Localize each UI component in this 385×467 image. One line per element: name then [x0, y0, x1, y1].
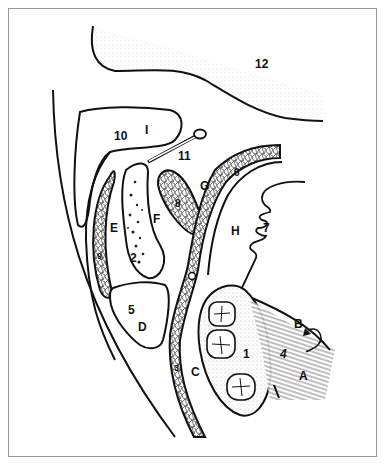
- label-4: 4: [280, 348, 287, 360]
- label-i: I: [145, 124, 148, 136]
- label-b: B: [294, 318, 303, 330]
- label-d: D: [138, 321, 147, 333]
- label-11: 11: [178, 150, 191, 162]
- label-a: A: [299, 370, 308, 382]
- label-g: G: [200, 180, 209, 192]
- label-6: 6: [234, 168, 240, 178]
- structure-1-teeth: [198, 285, 270, 415]
- label-9: 9: [97, 252, 102, 261]
- label-5: 5: [128, 304, 135, 316]
- label-f: F: [153, 213, 160, 225]
- structure-7-wavy-duct: [240, 182, 305, 292]
- structure-5-d-block: [110, 282, 169, 348]
- label-8: 8: [175, 199, 181, 209]
- label-10: 10: [114, 130, 127, 142]
- label-h: H: [231, 225, 240, 237]
- label-12: 12: [255, 58, 268, 70]
- label-c: C: [191, 366, 200, 378]
- label-1: 1: [243, 348, 250, 360]
- anatomy-drawing: [0, 0, 385, 467]
- label-2: 2: [130, 252, 137, 264]
- label-3: 3: [174, 364, 179, 373]
- label-7: 7: [263, 222, 270, 234]
- label-e: E: [110, 222, 118, 234]
- junction-node: [189, 273, 196, 280]
